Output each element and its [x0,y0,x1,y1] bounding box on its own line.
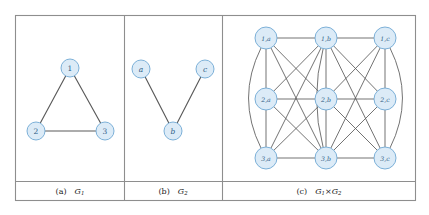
graph-node[interactable]: 1 [61,59,79,77]
node-label: 1,c [380,35,390,42]
node-label: a [139,65,143,74]
caption-panel-a: (a) G1 [56,187,85,197]
node-label: b [171,127,176,136]
caption-panel-b: (b) G2 [158,187,188,197]
graph-node[interactable]: 3,b [315,147,337,169]
graph-node[interactable]: 2,a [255,88,277,110]
graph-node[interactable]: 3,c [374,147,396,169]
graph-node[interactable]: 3 [96,122,114,140]
node-label: 3,a [261,155,271,162]
node-label: 2 [34,127,39,136]
graph-node[interactable]: a [132,60,150,78]
node-label: 3 [103,127,108,136]
graph-node[interactable]: 2 [27,122,45,140]
node-label: 2,c [379,96,390,103]
graph-node[interactable]: 3,a [255,147,277,169]
graph-product-figure: 123 acb 1,a1,b1,c2,a2,b2,c3,a3,b3,c (a) … [0,0,429,215]
graph-node[interactable]: 1,a [255,27,277,49]
graph-node[interactable]: b [164,122,182,140]
graph-node[interactable]: 2,c [374,88,396,110]
node-label: 3,c [380,155,390,162]
graph-node[interactable]: c [196,60,214,78]
caption-panel-c: (c) G1×G2 [296,187,342,197]
node-label: 3,b [321,155,331,162]
node-label: 1,a [261,35,271,42]
node-label: 2,a [260,96,271,103]
graph-node[interactable]: 2,b [315,88,337,110]
graph-node[interactable]: 1,c [374,27,396,49]
node-label: 1,b [321,35,331,42]
figure-container: 123 acb 1,a1,b1,c2,a2,b2,c3,a3,b3,c (a) … [0,0,429,215]
graph-node[interactable]: 1,b [315,27,337,49]
figure-background [0,0,429,215]
node-label: 1 [68,64,73,73]
node-label: 2,b [320,96,331,103]
